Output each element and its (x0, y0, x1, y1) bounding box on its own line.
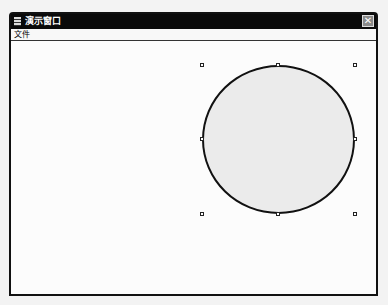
resize-handle-bottom-middle[interactable] (276, 212, 280, 216)
drawing-canvas[interactable] (11, 41, 376, 294)
menu-file[interactable]: 文件 (14, 29, 30, 40)
menu-bar: 文件 (11, 29, 376, 41)
resize-handle-middle-left[interactable] (200, 137, 204, 141)
resize-handle-bottom-left[interactable] (200, 212, 204, 216)
resize-handle-bottom-right[interactable] (353, 212, 357, 216)
close-button[interactable]: ✕ (362, 15, 374, 27)
title-bar[interactable]: 演示窗口 ✕ (11, 14, 376, 29)
app-icon (14, 17, 21, 26)
resize-handle-top-right[interactable] (353, 63, 357, 67)
circle-shape[interactable] (202, 65, 355, 214)
window-title: 演示窗口 (25, 14, 61, 29)
resize-handle-top-middle[interactable] (276, 63, 280, 67)
resize-handle-top-left[interactable] (200, 63, 204, 67)
demo-window: 演示窗口 ✕ 文件 (9, 12, 378, 296)
resize-handle-middle-right[interactable] (353, 137, 357, 141)
